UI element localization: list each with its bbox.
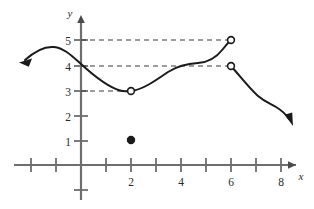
x-axis-arrowhead: [288, 161, 296, 169]
x-tick-label-2: 2: [128, 176, 134, 188]
right-arrowhead-icon: [285, 113, 293, 127]
y-axis-arrowhead: [77, 15, 85, 23]
x-axis-group: [14, 158, 296, 172]
y-axis-group: [74, 15, 88, 200]
y-tick-label-3: 3: [65, 86, 71, 98]
axis-names-group: y x: [67, 7, 304, 182]
data-points-group: [127, 37, 234, 144]
curve-branch-left: [19, 47, 131, 91]
y-tick-label-4: 4: [65, 61, 71, 73]
x-axis-label: x: [298, 170, 304, 182]
closed-point-2-1: [127, 136, 134, 143]
function-graph-svg: 2 4 6 8 5 4 3 2 1 y x: [0, 0, 314, 209]
curve-branch-right: [231, 66, 293, 126]
x-tick-label-4: 4: [178, 176, 184, 188]
curve-path-left: [25, 47, 131, 91]
open-point-2-3: [128, 88, 135, 95]
curve-path-right: [231, 66, 289, 119]
y-tick-label-1: 1: [65, 136, 71, 148]
y-axis-label: y: [67, 7, 73, 19]
x-tick-label-8: 8: [278, 176, 284, 188]
open-point-6-5: [228, 37, 235, 44]
x-tick-label-6: 6: [228, 176, 234, 188]
graph-figure: 2 4 6 8 5 4 3 2 1 y x: [0, 0, 314, 209]
open-point-6-4: [228, 63, 235, 70]
y-tick-label-2: 2: [65, 111, 71, 123]
y-tick-label-5: 5: [65, 35, 71, 47]
